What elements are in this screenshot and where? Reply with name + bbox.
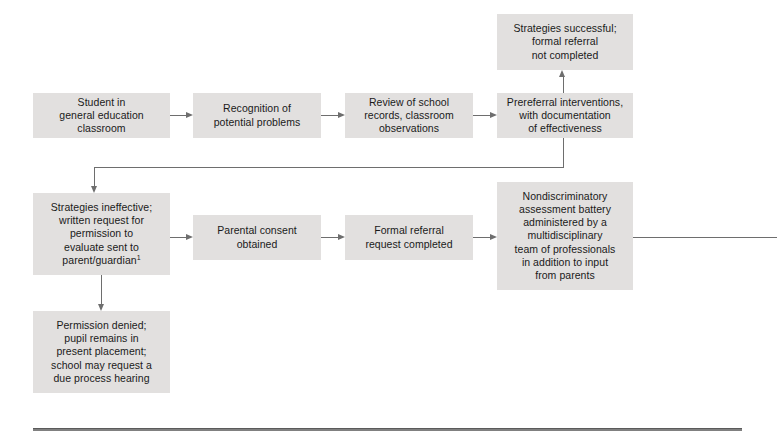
flowchart-figure: Strategies successful; formal referral n… (0, 0, 777, 436)
edge-prereferral-to-ineffective-segment-down (563, 138, 564, 168)
node-formal-referral-request-label: Formal referral request completed (350, 224, 468, 250)
node-student-general-education: Student in general education classroom (33, 93, 170, 138)
edge-consent-to-formal-referral-arrowhead (338, 234, 345, 240)
edge-recognition-to-review-arrowhead (338, 112, 345, 118)
edge-review-to-prereferral (473, 115, 490, 116)
node-review-school-records-label: Review of school records, classroom obse… (350, 96, 468, 136)
edge-student-to-recognition (170, 115, 186, 116)
edge-ineffective-to-denied (101, 275, 102, 304)
node-strategies-ineffective: Strategies ineffective; written request … (33, 193, 170, 275)
node-formal-referral-request: Formal referral request completed (345, 215, 473, 260)
node-review-school-records: Review of school records, classroom obse… (345, 93, 473, 138)
node-strategies-successful-label: Strategies successful; formal referral n… (502, 22, 628, 62)
node-student-general-education-label: Student in general education classroom (38, 96, 165, 136)
node-nondiscriminatory-assessment-label: Nondiscriminatory assessment battery adm… (502, 190, 628, 282)
node-permission-denied-label: Permission denied; pupil remains in pres… (38, 319, 165, 385)
edge-ineffective-to-consent (170, 237, 186, 238)
node-nondiscriminatory-assessment: Nondiscriminatory assessment battery adm… (497, 182, 633, 290)
node-strategies-successful: Strategies successful; formal referral n… (497, 14, 633, 70)
edge-prereferral-to-ineffective-arrowhead (91, 186, 97, 193)
edge-prereferral-to-ineffective-segment-drop (94, 167, 95, 186)
node-permission-denied: Permission denied; pupil remains in pres… (33, 311, 170, 393)
edge-ineffective-to-denied-arrowhead (98, 304, 104, 311)
edge-student-to-recognition-arrowhead (186, 112, 193, 118)
node-prereferral-interventions-label: Prereferral interventions, with document… (502, 96, 628, 136)
edge-prereferral-to-successful (563, 77, 564, 93)
node-recognition-potential-problems: Recognition of potential problems (193, 93, 321, 138)
edge-prereferral-to-successful-arrowhead (559, 70, 565, 77)
node-strategies-ineffective-label: Strategies ineffective; written request … (38, 201, 165, 267)
edge-review-to-prereferral-arrowhead (490, 112, 497, 118)
edge-formal-referral-to-assessment-arrowhead (490, 234, 497, 240)
node-parental-consent: Parental consent obtained (193, 215, 321, 260)
edge-consent-to-formal-referral (321, 237, 338, 238)
edge-ineffective-to-consent-arrowhead (186, 234, 193, 240)
footer-divider-rule (33, 428, 742, 431)
node-recognition-potential-problems-label: Recognition of potential problems (198, 102, 316, 128)
edge-formal-referral-to-assessment (473, 237, 490, 238)
node-parental-consent-label: Parental consent obtained (198, 224, 316, 250)
edge-prereferral-to-ineffective-segment-left (94, 167, 564, 168)
node-prereferral-interventions: Prereferral interventions, with document… (497, 93, 633, 138)
edge-recognition-to-review (321, 115, 338, 116)
edge-assessment-continues-offpage (633, 237, 777, 238)
footnote-marker: 1 (137, 253, 141, 260)
